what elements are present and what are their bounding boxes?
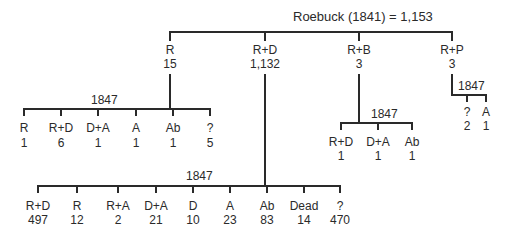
tick <box>377 122 379 130</box>
leaf-value: 1 <box>382 149 442 163</box>
tick <box>266 185 268 193</box>
tick <box>37 185 39 193</box>
group-r-year: 1847 <box>91 93 118 108</box>
tick <box>135 108 137 116</box>
tick <box>303 185 305 193</box>
tick <box>466 94 468 102</box>
node-rb-value: 3 <box>329 57 389 71</box>
node-rb-label: R+B <box>329 43 389 57</box>
tick <box>485 94 487 102</box>
tick <box>358 31 360 41</box>
leaf-label: Ab <box>382 135 442 149</box>
leaf-value: 5 <box>180 136 240 150</box>
tick <box>339 185 341 193</box>
leaf-label: ? <box>310 199 370 213</box>
root-label: Roebuck (1841) = 1,153 <box>293 9 433 24</box>
node-rp-value: 3 <box>422 57 482 71</box>
connector <box>169 74 171 109</box>
tick <box>23 108 25 116</box>
tick <box>264 31 266 41</box>
tick <box>192 185 194 193</box>
tick <box>411 122 413 130</box>
tick <box>169 31 171 41</box>
tick <box>451 31 453 41</box>
tick <box>97 108 99 116</box>
connector <box>451 74 453 95</box>
tick <box>155 185 157 193</box>
node-r-value: 15 <box>140 57 200 71</box>
node-rp-label: R+P <box>422 43 482 57</box>
group-rd-year: 1847 <box>186 169 213 184</box>
node-rd-value: 1,132 <box>235 57 295 71</box>
connector <box>264 74 266 186</box>
leaf-value: 470 <box>310 213 370 227</box>
tick <box>76 185 78 193</box>
tick <box>229 185 231 193</box>
tick <box>117 185 119 193</box>
group-rp-bar <box>451 94 487 96</box>
group-r-bar <box>23 108 211 110</box>
connector <box>358 74 360 123</box>
tick <box>340 122 342 130</box>
tick <box>172 108 174 116</box>
leaf-value: 1 <box>456 119 506 133</box>
tick <box>209 108 211 116</box>
group-rb-year: 1847 <box>371 107 398 122</box>
tick <box>60 108 62 116</box>
root-bar <box>169 31 453 33</box>
group-rd-bar <box>37 185 341 187</box>
node-r-label: R <box>140 43 200 57</box>
group-rp-year: 1847 <box>458 79 485 94</box>
leaf-label: A <box>456 105 506 119</box>
node-rd-label: R+D <box>235 43 295 57</box>
leaf-label: ? <box>180 121 240 135</box>
